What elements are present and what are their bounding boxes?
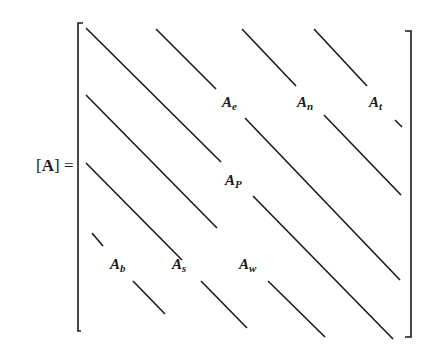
coef-ab: Ab — [110, 256, 126, 274]
coef-an: An — [297, 94, 313, 112]
diag-n-lower — [324, 115, 401, 195]
diag-w-upper — [86, 95, 217, 228]
left-bracket — [78, 23, 83, 331]
coef-aw: Aw — [239, 256, 256, 274]
diag-n-upper — [242, 29, 296, 86]
coef-ae: Ae — [222, 94, 237, 112]
diag-main-upper — [86, 28, 221, 162]
coef-ap: AP — [225, 172, 242, 190]
diag-main-lower — [253, 196, 393, 339]
diag-b-lower — [133, 281, 165, 314]
diag-t-lower — [395, 120, 402, 127]
diag-s-lower — [201, 281, 247, 328]
diag-e-upper — [156, 29, 216, 89]
diag-t-upper — [314, 29, 367, 86]
diag-b-upper — [92, 233, 103, 246]
diag-w-lower — [268, 281, 325, 337]
diag-e-lower — [245, 118, 400, 280]
right-bracket — [405, 31, 411, 337]
coef-as: As — [172, 256, 186, 274]
coef-at: At — [369, 94, 382, 112]
matrix-diagram — [0, 0, 433, 355]
